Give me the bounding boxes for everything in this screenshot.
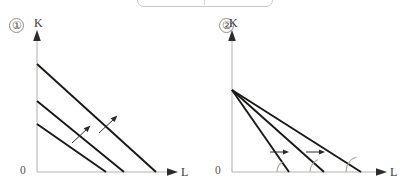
isocost-line-flat (232, 90, 361, 172)
panel-1-plot (0, 0, 205, 192)
isocost-line-2 (37, 101, 124, 172)
y-axis-arrowhead-1 (33, 30, 41, 41)
x-axis-arrowhead-2 (376, 168, 387, 176)
panel-parallel-shift: ① K L 0 (0, 0, 205, 192)
x-axis-arrowhead-1 (167, 168, 178, 176)
y-axis-arrowhead-2 (228, 30, 236, 41)
panel-2-plot (205, 0, 410, 192)
isocost-line-3 (37, 64, 156, 172)
angle-arc-flat (346, 157, 356, 172)
rotation-arrow-2-head (319, 150, 325, 155)
isocost-line-middle (232, 90, 324, 172)
panel-rotation: ② K L 0 (205, 0, 410, 192)
angle-arc-steep (277, 162, 283, 172)
rotation-arrow-1-head (283, 150, 289, 155)
isocost-line-steep (232, 90, 289, 172)
figure-root: ① K L 0 ② K L 0 (0, 0, 410, 192)
